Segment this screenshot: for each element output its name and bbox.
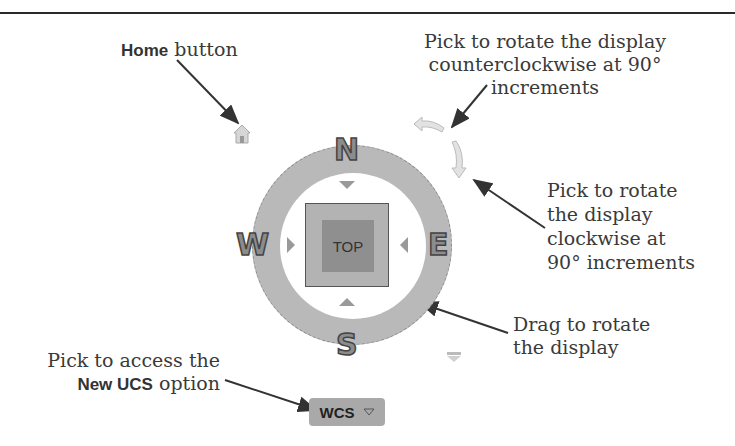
drag-callout: Drag to rotate the display [513, 313, 713, 359]
viewcube-face-label: TOP [333, 238, 364, 255]
nav-arrow-west[interactable] [287, 237, 295, 253]
viewcube-face-inner[interactable]: TOP [322, 220, 374, 272]
rotate-ccw-icon [412, 114, 448, 136]
home-button[interactable] [233, 124, 251, 144]
compass-north[interactable]: N [334, 135, 359, 165]
compass-west[interactable]: W [236, 230, 269, 260]
chevron-down-icon [363, 408, 375, 416]
compass-south[interactable]: S [336, 330, 358, 360]
rotate-ccw-button[interactable] [412, 114, 448, 136]
rotate-cw-icon [448, 140, 468, 180]
home-icon [233, 124, 251, 144]
home-callout: Home button [121, 38, 238, 62]
viewcube-menu-button[interactable] [446, 349, 462, 361]
nav-arrow-north[interactable] [339, 181, 355, 189]
rotate-cw-button[interactable] [448, 140, 468, 180]
ucs-callout: Pick to access the New UCS option [40, 349, 220, 396]
ucs-menu-label: WCS [320, 404, 355, 421]
viewcube-face[interactable]: TOP [305, 203, 389, 287]
cw-callout: Pick to rotate the display clockwise at … [547, 178, 735, 274]
nav-arrow-south[interactable] [339, 298, 355, 306]
viewcube-menu-icon [446, 351, 462, 363]
ucs-menu-button[interactable]: WCS [309, 398, 385, 426]
ccw-callout: Pick to rotate the display counterclockw… [380, 30, 710, 99]
compass-east[interactable]: E [428, 230, 449, 260]
top-rule [0, 12, 735, 14]
nav-arrow-east[interactable] [400, 237, 408, 253]
